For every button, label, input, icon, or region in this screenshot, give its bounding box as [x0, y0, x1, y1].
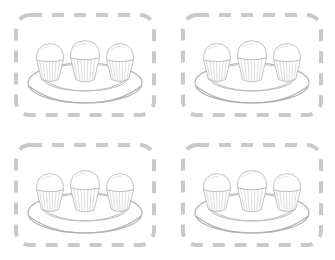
panel-4-cupcake-plate-illustration: [181, 143, 323, 247]
worksheet-panel-2[interactable]: [181, 13, 323, 117]
worksheet-panel-4[interactable]: [181, 143, 323, 247]
panel-3-cupcake-plate-illustration: [14, 143, 156, 247]
worksheet-page: [0, 0, 335, 260]
worksheet-panel-1[interactable]: [14, 13, 156, 117]
panel-2-cupcake-plate-illustration: [181, 13, 323, 117]
worksheet-panel-3[interactable]: [14, 143, 156, 247]
panel-1-cupcake-plate-illustration: [14, 13, 156, 117]
